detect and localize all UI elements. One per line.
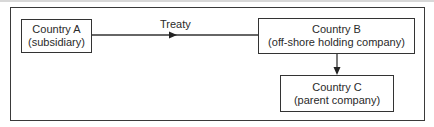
node-subtitle: (parent company) [294,94,380,107]
treaty-label: Treaty [160,18,191,30]
node-subtitle: (subsidiary) [28,36,85,49]
node-title: Country C [312,81,362,94]
node-country-a: Country A (subsidiary) [21,19,92,53]
node-country-b: Country B (off-shore holding company) [258,18,415,54]
node-country-c: Country C (parent company) [280,75,394,112]
node-subtitle: (off-shore holding company) [268,36,405,49]
node-title: Country B [312,23,361,36]
arrowhead-down-icon [334,67,341,75]
node-title: Country A [32,23,80,36]
arrowhead-right-icon [169,32,177,39]
